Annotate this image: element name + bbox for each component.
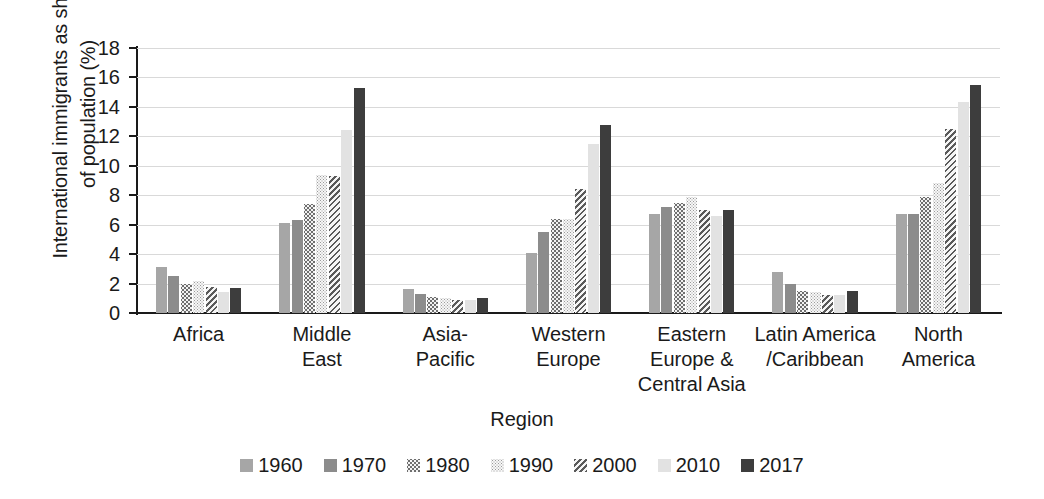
bar-group [630,48,753,313]
y-axis-tick [129,47,137,49]
y-axis-tick [129,312,137,314]
legend-item-1990[interactable]: 1990 [491,455,554,475]
bar-1990-eastern-europe-central-asia [686,197,697,313]
legend-item-2010[interactable]: 2010 [658,455,721,475]
bar-1990-asia-pacific [440,298,451,313]
y-axis-tick [129,194,137,196]
legend-label: 2000 [592,455,637,475]
bar-1970-eastern-europe-central-asia [661,207,672,313]
bar-2017-latin-america-caribbean [847,291,858,313]
bar-1980-eastern-europe-central-asia [674,203,685,313]
bar-2017-middle-east [354,88,365,313]
bar-2017-western-europe [600,125,611,313]
legend-item-1960[interactable]: 1960 [240,455,303,475]
bar-2017-africa [230,288,241,313]
y-axis-tick-label: 8 [84,185,120,205]
bar-1990-africa [193,281,204,313]
y-axis-tick-label: 0 [84,303,120,323]
bar-1990-western-europe [563,219,574,313]
bar-1970-north-america [908,214,919,313]
y-axis-tick-label: 10 [84,156,120,176]
bar-2000-middle-east [329,176,340,313]
bar-1960-asia-pacific [403,289,414,313]
legend-swatch-icon [324,459,337,472]
bar-2000-eastern-europe-central-asia [699,210,710,313]
bar-1960-middle-east [279,223,290,313]
y-axis-tick-label: 18 [84,38,120,58]
plot-area [137,48,1000,313]
bar-2010-middle-east [341,130,352,313]
bar-1960-eastern-europe-central-asia [649,214,660,313]
bar-2017-north-america [970,85,981,313]
bar-group [260,48,383,313]
bar-1960-western-europe [526,253,537,313]
y-axis-tick [129,224,137,226]
bar-1960-north-america [896,214,907,313]
legend-swatch-icon [658,459,671,472]
legend-label: 1960 [258,455,303,475]
y-axis-tick-label: 2 [84,274,120,294]
bar-1980-africa [181,284,192,313]
bar-2010-western-europe [588,144,599,313]
bar-2010-north-america [958,102,969,313]
y-axis-tick-label: 6 [84,215,120,235]
x-axis-title: Region [0,408,1044,431]
bar-1980-asia-pacific [427,297,438,313]
bar-1970-middle-east [292,220,303,313]
y-axis-tick [129,106,137,108]
y-axis-tick [129,165,137,167]
legend: 1960197019801990200020102017 [0,455,1044,475]
bar-group [137,48,260,313]
category-label: North America [857,322,1020,372]
legend-label: 2017 [759,455,804,475]
bar-2000-north-america [945,129,956,313]
bar-2017-eastern-europe-central-asia [723,210,734,313]
legend-label: 1970 [342,455,387,475]
legend-swatch-icon [240,459,253,472]
y-axis-tick-label: 16 [84,67,120,87]
bar-group [753,48,876,313]
legend-label: 1990 [509,455,554,475]
bar-2010-africa [218,292,229,313]
bar-1980-latin-america-caribbean [797,291,808,313]
legend-swatch-icon [741,459,754,472]
bar-2010-eastern-europe-central-asia [711,216,722,313]
bar-2000-western-europe [575,189,586,313]
bar-group [507,48,630,313]
y-axis-tick [129,76,137,78]
legend-label: 2010 [676,455,721,475]
bar-1990-latin-america-caribbean [810,292,821,313]
bar-2000-africa [206,287,217,314]
bar-2017-asia-pacific [477,298,488,313]
bar-2010-latin-america-caribbean [834,295,845,313]
bar-group [384,48,507,313]
legend-item-2017[interactable]: 2017 [741,455,804,475]
bar-1990-middle-east [316,175,327,313]
legend-item-1980[interactable]: 1980 [407,455,470,475]
bar-1980-middle-east [304,204,315,313]
y-axis-tick [129,253,137,255]
bar-group [877,48,1000,313]
bar-1980-western-europe [551,219,562,313]
legend-swatch-icon [407,459,420,472]
bar-1990-north-america [933,183,944,313]
bar-1970-latin-america-caribbean [785,284,796,313]
bar-1970-western-europe [538,232,549,313]
y-axis-tick [129,135,137,137]
y-axis-tick [129,283,137,285]
bar-1980-north-america [920,197,931,313]
bar-1970-asia-pacific [415,294,426,313]
legend-item-2000[interactable]: 2000 [574,455,637,475]
y-axis-tick-label: 14 [84,97,120,117]
bar-2000-asia-pacific [452,300,463,313]
legend-swatch-icon [491,459,504,472]
bar-2010-asia-pacific [465,300,476,313]
legend-item-1970[interactable]: 1970 [324,455,387,475]
chart-figure: International immigrants as share of pop… [0,0,1044,499]
y-axis-tick-label: 12 [84,126,120,146]
bar-2000-latin-america-caribbean [822,295,833,313]
bar-1960-latin-america-caribbean [772,272,783,313]
bar-1960-africa [156,267,167,313]
bar-1970-africa [168,276,179,313]
legend-label: 1980 [425,455,470,475]
